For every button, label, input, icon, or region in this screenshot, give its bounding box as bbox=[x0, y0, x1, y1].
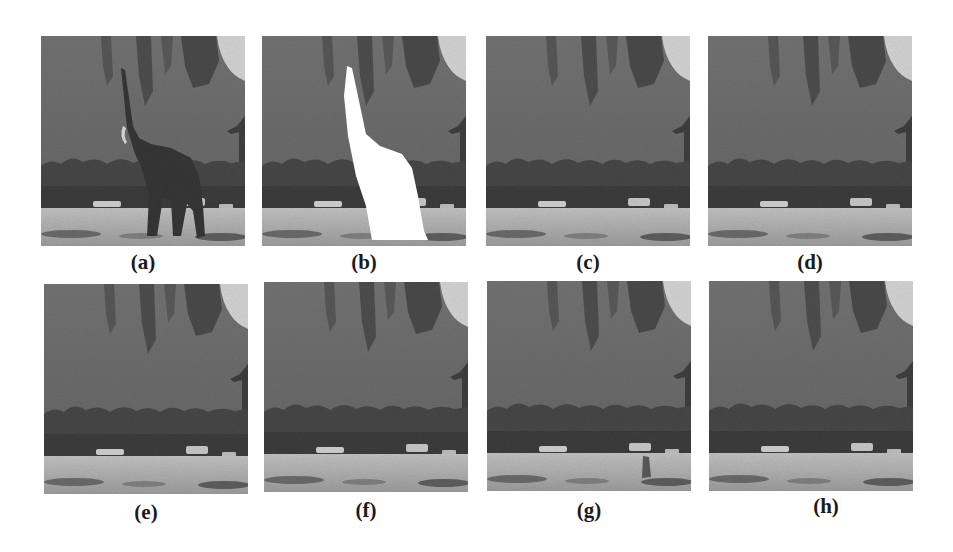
panel-b-caption: (b) bbox=[262, 250, 466, 275]
panel-a-caption: (a) bbox=[41, 250, 245, 275]
panel-e-image bbox=[44, 284, 248, 494]
panel-f-image bbox=[264, 282, 468, 492]
panel-d-image bbox=[708, 36, 912, 246]
panel-g-image bbox=[487, 281, 691, 491]
panel-g-caption: (g) bbox=[487, 498, 691, 523]
panel-c-image bbox=[486, 36, 690, 246]
panel-a-image bbox=[41, 36, 245, 246]
panel-c-caption: (c) bbox=[486, 250, 690, 275]
panel-h-caption: (h) bbox=[724, 494, 928, 519]
panel-h-image bbox=[709, 281, 913, 491]
panel-e-caption: (e) bbox=[44, 500, 248, 525]
panel-d-caption: (d) bbox=[708, 250, 912, 275]
panel-f-caption: (f) bbox=[264, 498, 468, 523]
panel-b-image bbox=[262, 36, 466, 246]
